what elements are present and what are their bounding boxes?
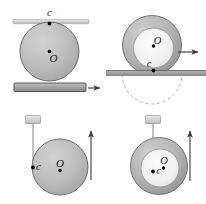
contact-point-c-dot xyxy=(151,170,155,174)
dashed-rolling-arc xyxy=(122,74,182,104)
label-contact-c: c xyxy=(147,58,152,69)
label-contact-c: c xyxy=(156,165,161,176)
label-contact-c: c xyxy=(47,6,52,18)
label-center-o: O xyxy=(154,35,162,46)
ground-surface xyxy=(106,71,206,77)
center-point-o-dot xyxy=(58,169,62,173)
label-center-o: O xyxy=(160,155,168,166)
panel-top-right: O c xyxy=(106,16,206,105)
bottom-plate xyxy=(14,83,86,92)
figure-canvas: c O O c c O xyxy=(0,0,206,204)
panel-bottom-right: c O xyxy=(131,116,191,195)
hanging-block xyxy=(146,116,161,124)
label-center-o: O xyxy=(50,52,58,64)
label-center-o: O xyxy=(56,157,64,169)
center-point-o-dot xyxy=(162,166,165,169)
panel-bottom-left: c O xyxy=(26,116,92,196)
physics-figure: c O O c c O xyxy=(0,0,206,204)
panel-top-left: c O xyxy=(13,6,100,92)
contact-point-c-dot xyxy=(152,69,156,73)
contact-point-c-dot xyxy=(31,166,35,170)
label-contact-c: c xyxy=(36,160,41,172)
hanging-block xyxy=(26,116,41,124)
contact-point-c-dot xyxy=(48,22,52,26)
